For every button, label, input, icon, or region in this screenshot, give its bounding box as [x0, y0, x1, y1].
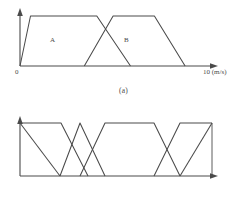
membership-curve-moderate — [80, 123, 180, 176]
panel-a: 0 10 (m/s) A B (a) — [0, 0, 247, 104]
panel-a-set-label-b: B — [124, 36, 129, 44]
membership-curve-soft — [60, 123, 105, 176]
panel-a-caption: (a) — [0, 86, 247, 95]
membership-curve-zero — [20, 123, 60, 176]
panel-b-plot — [0, 104, 247, 212]
panel-a-origin-label: 0 — [15, 68, 19, 76]
panel-b-x-axis — [20, 173, 218, 179]
membership-curve-hard — [154, 123, 212, 176]
membership-curve-strong — [180, 123, 212, 176]
membership-curve-A — [20, 16, 131, 66]
panel-a-x-axis — [20, 63, 218, 69]
panel-a-xmax-label: 10 (m/s) — [203, 68, 227, 76]
membership-curve-B — [84, 16, 185, 66]
fuzzy-membership-figure: 0 10 (m/s) A B (a) — [0, 0, 247, 212]
panel-a-set-label-a: A — [50, 36, 55, 44]
panel-b: 0 10 (m/s) zero calm soft moderate hard … — [0, 104, 247, 212]
